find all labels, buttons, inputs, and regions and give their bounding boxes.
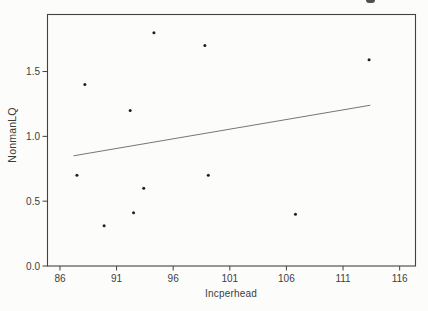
x-tick-label: 86 [54,273,66,284]
fit-line [74,105,371,156]
x-axis-label: Incperhead [131,288,331,299]
y-tick-label: 0.5 [26,196,40,207]
data-point [368,58,371,61]
plot-frame [48,15,416,267]
x-tick-label: 106 [278,273,295,284]
data-point [294,213,297,216]
x-tick-label: 111 [335,273,351,284]
data-point [142,187,145,190]
scatter-plot-figure: 8691961011061111160.00.51.01.5 NonmanLQ … [0,0,428,311]
y-tick-label: 0.0 [26,261,40,272]
data-point [207,174,210,177]
data-point [203,44,206,47]
y-tick-label: 1.0 [26,131,40,142]
data-point [75,174,78,177]
x-tick-label: 96 [168,273,180,284]
y-tick-label: 1.5 [26,66,40,77]
x-tick-label: 116 [392,273,408,284]
data-point [132,211,135,214]
data-point [152,31,155,34]
x-tick-label: 101 [221,273,238,284]
y-axis-label: NonmanLQ [6,94,20,176]
data-point [129,109,132,112]
plot-area: 8691961011061111160.00.51.01.5 [0,0,428,311]
data-point [83,83,86,86]
x-tick-label: 91 [111,273,123,284]
data-point [103,224,106,227]
